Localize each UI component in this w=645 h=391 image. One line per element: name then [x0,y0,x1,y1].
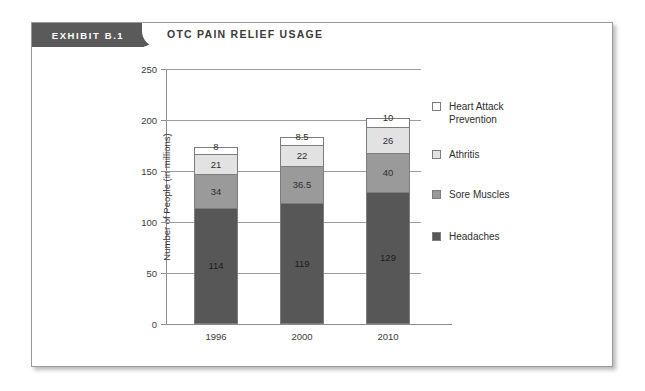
legend-swatch-heart-attack-prevention [432,102,441,111]
bar-value-label: 119 [294,259,309,269]
bar-value-label: 8 [213,142,218,152]
bar-segment-sore-muscles[interactable]: 36.5 [280,166,324,203]
y-tick-mark [161,273,166,274]
legend-swatch-athritis [432,150,441,159]
exhibit-tag: EXHIBIT B.1 [32,23,144,47]
legend-item-athritis[interactable]: Athritis [432,149,480,162]
y-tick-label: 100 [141,217,157,228]
bar-segment-athritis[interactable]: 22 [280,145,324,167]
bar-segment-sore-muscles[interactable]: 34 [194,174,238,209]
exhibit-title: OTC PAIN RELIEF USAGE [167,28,323,40]
chart-plot-area: Number of People (in millions) 050100150… [166,69,421,324]
x-tick-label-2000: 2000 [280,331,324,342]
y-tick-label: 0 [152,319,157,330]
bar-value-label: 40 [383,168,394,178]
bar-segment-headaches[interactable]: 114 [194,208,238,324]
bar-value-label: 129 [380,253,396,263]
bar-segment-sore-muscles[interactable]: 40 [366,153,410,194]
y-tick-mark [161,171,166,172]
bar-group[interactable]: 102640129 [366,119,410,324]
legend-label-heart-attack-prevention: Heart Attack Prevention [449,101,503,126]
legend-item-sore-muscles[interactable]: Sore Muscles [432,189,510,202]
y-tick-label: 50 [146,268,157,279]
exhibit-tag-notch [136,23,158,47]
bar-value-label: 36.5 [293,180,312,190]
x-axis-line [166,324,452,325]
x-tick-label-2010: 2010 [366,331,410,342]
bar-value-label: 26 [383,136,394,146]
y-tick-mark [161,120,166,121]
legend-swatch-headaches [432,232,441,241]
bar-group[interactable]: 82134114 [194,148,238,325]
y-tick-mark [161,69,166,70]
y-tick-label: 150 [141,166,157,177]
legend-item-headaches[interactable]: Headaches [432,231,500,244]
legend-label-sore-muscles: Sore Muscles [449,189,510,202]
bar-value-label: 8.5 [295,132,308,142]
y-tick-label: 200 [141,115,157,126]
y-axis-title: Number of People (in millions) [161,133,172,260]
y-tick-mark [161,324,166,325]
y-tick-mark [161,222,166,223]
exhibit-frame: EXHIBIT B.1 OTC PAIN RELIEF USAGE Number… [31,22,613,367]
legend-swatch-sore-muscles [432,190,441,199]
bar-value-label: 21 [211,160,222,170]
bar-segment-athritis[interactable]: 26 [366,127,410,154]
legend-label-athritis: Athritis [449,149,480,162]
bar-value-label: 34 [211,187,222,197]
bar-value-label: 22 [297,151,308,161]
bar-segment-athritis[interactable]: 21 [194,154,238,175]
y-tick-label: 250 [141,64,157,75]
bar-group[interactable]: 8.52236.5119 [280,138,324,324]
x-tick-label-1996: 1996 [194,331,238,342]
legend-item-heart-attack-prevention[interactable]: Heart Attack Prevention [432,101,503,126]
bar-value-label: 10 [383,113,394,123]
legend-label-headaches: Headaches [449,231,500,244]
bar-segment-headaches[interactable]: 129 [366,192,410,324]
gridline [166,69,421,70]
bar-segment-headaches[interactable]: 119 [280,203,324,324]
bar-value-label: 114 [208,261,223,271]
